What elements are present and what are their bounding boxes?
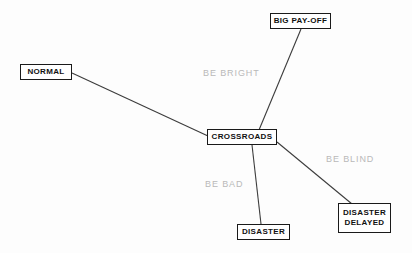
edge-crossroads-to-big-pay-off [259,29,301,130]
edge-normal-to-crossroads [72,73,208,136]
edge-label-label-be-bad: BE BAD [205,179,243,189]
node-big-pay-off[interactable]: BIG PAY-OFF [270,13,331,29]
node-disaster[interactable]: DISASTER [237,224,290,240]
edge-label-label-be-bright: BE BRIGHT [203,68,260,78]
edge-crossroads-to-disaster-delayed [277,142,352,204]
edge-label-label-be-blind: BE BLIND [326,154,374,164]
node-crossroads[interactable]: CROSSROADS [207,129,277,145]
node-disaster-delayed[interactable]: DISASTER DELAYED [338,203,391,233]
edge-crossroads-to-disaster [252,145,261,224]
node-normal[interactable]: NORMAL [20,64,72,80]
diagram-canvas: BIG PAY-OFFNORMALCROSSROADSDISASTERDISAS… [0,0,412,253]
